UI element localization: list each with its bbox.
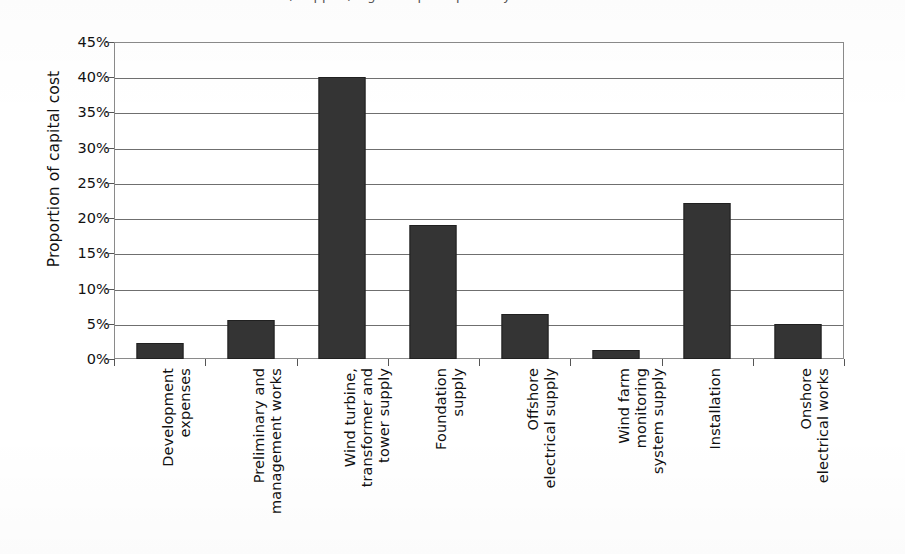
y-tick-label-5%: 5% (50, 316, 110, 332)
y-tick-label-30%: 30% (50, 140, 110, 156)
y-tick-mark-10% (106, 289, 114, 290)
y-tick-label-20%: 20% (50, 210, 110, 226)
x-label-slot: Wind farm monitoring system supply (570, 368, 661, 548)
y-tick-label-15%: 15% (50, 245, 110, 261)
bar-slot (205, 42, 296, 359)
y-tick-label-10%: 10% (50, 281, 110, 297)
bar-slot (297, 42, 388, 359)
bar-slot (570, 42, 661, 359)
y-tick-mark-20% (106, 218, 114, 219)
bar[interactable] (136, 343, 183, 359)
x-tick-mark (753, 359, 754, 366)
x-label-slot: Onshore electrical works (753, 368, 844, 548)
bar[interactable] (319, 77, 366, 359)
y-tick-mark-5% (106, 324, 114, 325)
bar-slot (753, 42, 844, 359)
x-label-slot: Foundation supply (388, 368, 479, 548)
y-tick-mark-25% (106, 183, 114, 184)
x-tick-mark (662, 359, 663, 366)
x-axis-label: Installation (707, 368, 724, 546)
x-tick-mark (844, 359, 845, 366)
y-tick-label-45%: 45% (50, 34, 110, 50)
x-axis-category-labels: Development expensesPreliminary and mana… (114, 368, 844, 548)
bar-slot (388, 42, 479, 359)
x-tick-mark (205, 359, 206, 366)
x-label-slot: Offshore electrical supply (479, 368, 570, 548)
y-tick-mark-45% (106, 42, 114, 43)
y-tick-mark-15% (106, 253, 114, 254)
y-tick-label-40%: 40% (50, 69, 110, 85)
x-tick-mark (388, 359, 389, 366)
x-axis-label: Development expenses (160, 368, 194, 546)
y-tick-label-35%: 35% (50, 104, 110, 120)
bar[interactable] (592, 350, 639, 359)
x-tick-mark (479, 359, 480, 366)
x-tick-mark (114, 359, 115, 366)
y-tick-label-25%: 25% (50, 175, 110, 191)
x-axis-label: Onshore electrical works (798, 368, 832, 546)
x-axis-label: Foundation supply (433, 368, 467, 546)
bar[interactable] (501, 314, 548, 359)
y-tick-label-0%: 0% (50, 351, 110, 367)
x-label-slot: Preliminary and management works (205, 368, 296, 548)
bar[interactable] (227, 320, 274, 359)
chart-page: (cropped) Figure caption partially visib… (0, 0, 905, 554)
top-caption-text: (cropped) Figure caption partially visib… (155, 0, 775, 3)
x-tick-mark (297, 359, 298, 366)
bar[interactable] (684, 203, 731, 359)
y-tick-mark-30% (106, 148, 114, 149)
x-axis-label: Wind farm monitoring system supply (616, 368, 667, 546)
x-axis-label: Offshore electrical supply (525, 368, 559, 546)
bar-slot (114, 42, 205, 359)
y-axis-title: Proportion of capital cost (45, 19, 63, 319)
x-axis-label: Preliminary and management works (251, 368, 285, 546)
x-label-slot: Development expenses (114, 368, 205, 548)
y-tick-mark-35% (106, 112, 114, 113)
top-caption-clip: (cropped) Figure caption partially visib… (0, 0, 905, 9)
y-tick-mark-40% (106, 77, 114, 78)
x-axis-label: Wind turbine, transformer and tower supp… (342, 368, 393, 546)
bar-slot (479, 42, 570, 359)
x-tick-mark (570, 359, 571, 366)
bars-layer (114, 42, 844, 359)
x-label-slot: Wind turbine, transformer and tower supp… (297, 368, 388, 548)
y-tick-mark-0% (106, 359, 114, 360)
bar[interactable] (410, 225, 457, 359)
x-label-slot: Installation (662, 368, 753, 548)
bar-slot (662, 42, 753, 359)
bar[interactable] (775, 324, 822, 359)
